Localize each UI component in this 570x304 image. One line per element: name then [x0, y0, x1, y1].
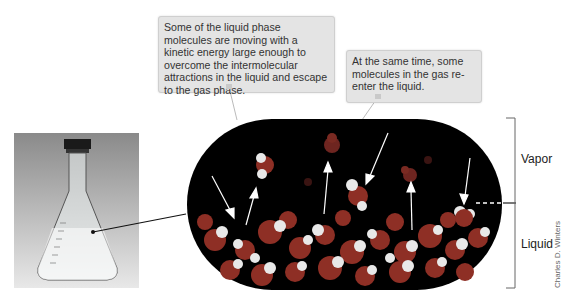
- callout-pin-2: [375, 94, 381, 99]
- callout-pin-1: [226, 84, 232, 89]
- vapor-label: Vapor: [521, 152, 552, 166]
- evaporation-callout: Some of the liquid phase molecules are m…: [158, 16, 335, 93]
- flask-pointer-line: [93, 214, 186, 232]
- liquid-label: Liquid: [521, 237, 553, 251]
- condensation-callout: At the same time, some molecules in the …: [346, 50, 482, 103]
- photo-credit: Charles D. Winters: [553, 221, 562, 288]
